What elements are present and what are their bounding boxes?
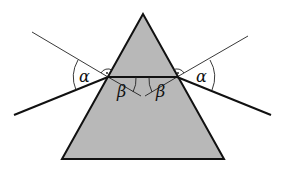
right-angle-dot-right	[177, 72, 179, 74]
alpha-arc-left	[73, 60, 78, 90]
beta-label-right: β	[155, 82, 165, 101]
normal-left	[32, 32, 108, 77]
alpha-label-left: α	[79, 67, 90, 86]
normal-right	[177, 36, 248, 77]
alpha-label-right: α	[196, 67, 207, 86]
right-angle-dot-left	[106, 72, 108, 74]
prism-diagram: α β β α	[0, 0, 286, 170]
diagram-canvas: α β β α	[0, 0, 286, 170]
beta-label-left: β	[116, 82, 126, 101]
alpha-arc-right	[210, 60, 215, 90]
